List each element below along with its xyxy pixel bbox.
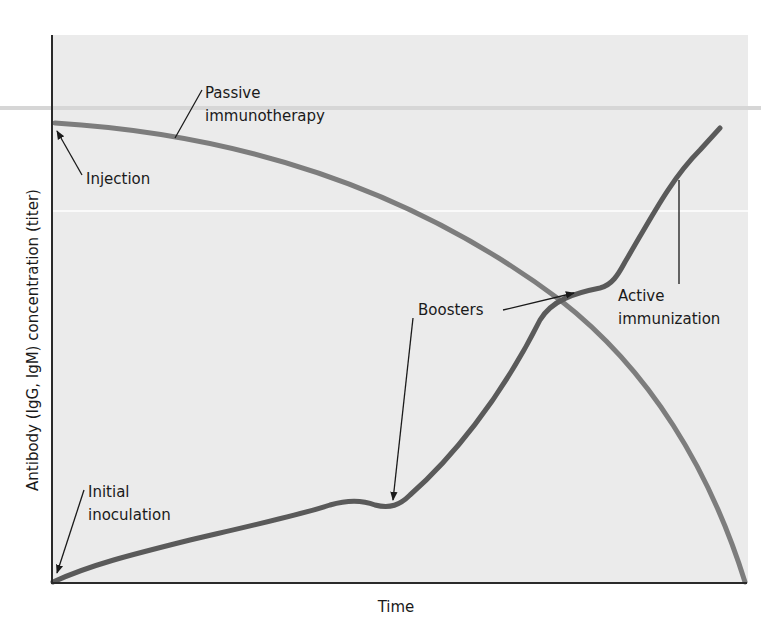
passive-label-line2: immunotherapy xyxy=(205,107,325,125)
active-label-line2: immunization xyxy=(618,310,720,328)
passive-label-line1: Passive xyxy=(205,84,260,102)
injection-label: Injection xyxy=(86,170,150,188)
scan-band-light xyxy=(52,210,748,212)
scan-band xyxy=(0,106,761,110)
x-axis-label: Time xyxy=(377,598,415,616)
y-axis-label: Antibody (IgG, IgM) concentration (titer… xyxy=(24,189,42,491)
initial-inoculation-label-line2: inoculation xyxy=(88,506,171,524)
active-label-line1: Active xyxy=(618,287,664,305)
boosters-label: Boosters xyxy=(418,301,484,319)
initial-inoculation-label-line1: Initial xyxy=(88,483,130,501)
antibody-titer-chart: Antibody (IgG, IgM) concentration (titer… xyxy=(0,0,761,626)
